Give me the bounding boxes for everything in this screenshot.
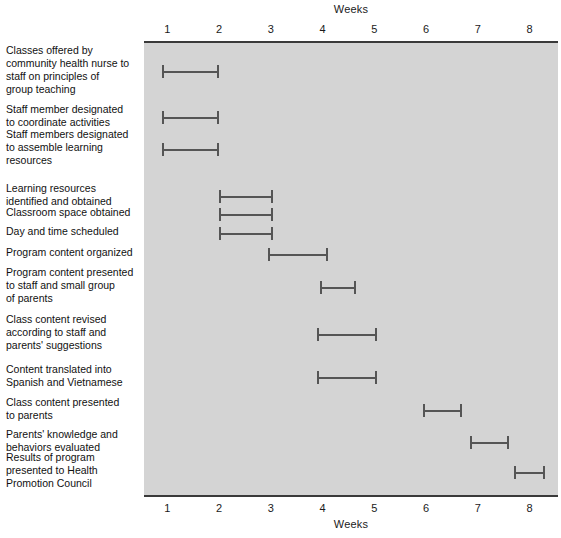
x-tick-label-bottom-5: 5: [371, 500, 377, 516]
gantt-chart-figure: Weeks 12345678 Classes offered bycommuni…: [0, 0, 561, 538]
gantt-bar-cap-start: [317, 371, 319, 384]
task-label-line: according to staff and: [6, 326, 140, 339]
gantt-bar: [219, 190, 273, 203]
x-tick-label-bottom-4: 4: [319, 500, 325, 516]
task-label-line: to assemble learning: [6, 141, 140, 154]
task-label: Results of programpresented to HealthPro…: [6, 451, 140, 490]
gantt-bar-stem: [317, 334, 377, 336]
bottom-axis-tick-row: 12345678: [0, 500, 561, 516]
x-tick-label-top-6: 6: [423, 21, 429, 37]
gantt-bar-cap-start: [219, 190, 221, 203]
task-label: Class content revisedaccording to staff …: [6, 313, 140, 352]
gantt-bar-stem: [162, 117, 219, 119]
gantt-bar: [320, 281, 356, 294]
task-label-line: Promotion Council: [6, 477, 140, 490]
task-label-line: Program content presented: [6, 266, 140, 279]
gantt-bar-stem: [423, 410, 462, 412]
task-label-line: Class content revised: [6, 313, 140, 326]
x-tick-label-bottom-6: 6: [423, 500, 429, 516]
x-tick-label-top-8: 8: [526, 21, 532, 37]
task-label-line: of parents: [6, 292, 140, 305]
chart-plot-area: [144, 41, 558, 497]
gantt-bar: [514, 466, 545, 479]
x-tick-label-bottom-8: 8: [526, 500, 532, 516]
gantt-bar-stem: [219, 214, 273, 216]
gantt-bar-cap-start: [320, 281, 322, 294]
x-tick-label-top-2: 2: [216, 21, 222, 37]
gantt-bar-cap-start: [470, 436, 472, 449]
gantt-bar-cap-end: [326, 248, 328, 261]
gantt-bar-cap-end: [271, 208, 273, 221]
task-label-line: Results of program: [6, 451, 140, 464]
gantt-bar: [162, 143, 219, 156]
task-label-column: Classes offered bycommunity health nurse…: [0, 41, 142, 497]
gantt-bar-cap-start: [268, 248, 270, 261]
task-label-line: Classroom space obtained: [6, 206, 140, 219]
gantt-bar: [219, 208, 273, 221]
task-label-line: Day and time scheduled: [6, 225, 140, 238]
task-label-line: Content translated into: [6, 363, 140, 376]
gantt-bar-stem: [162, 71, 219, 73]
gantt-bar: [317, 371, 377, 384]
gantt-bar: [219, 227, 273, 240]
gantt-bar-cap-end: [217, 143, 219, 156]
task-label-line: Learning resources: [6, 182, 140, 195]
top-axis-tick-row: 12345678: [0, 21, 561, 37]
task-label: Day and time scheduled: [6, 225, 140, 238]
gantt-bar-cap-start: [162, 65, 164, 78]
task-label-line: resources: [6, 154, 140, 167]
gantt-bar: [268, 248, 328, 261]
task-label: Staff member designatedto coordinate act…: [6, 103, 140, 129]
task-label: Program content organized: [6, 246, 140, 259]
bottom-axis-title: Weeks: [144, 518, 558, 530]
gantt-bar-stem: [317, 377, 377, 379]
gantt-bar: [317, 328, 377, 341]
gantt-bar-stem: [470, 442, 509, 444]
gantt-bar: [470, 436, 509, 449]
gantt-bar-cap-start: [162, 143, 164, 156]
x-tick-label-top-7: 7: [475, 21, 481, 37]
gantt-bar-cap-end: [375, 371, 377, 384]
x-tick-label-bottom-2: 2: [216, 500, 222, 516]
task-label-line: Staff member designated: [6, 103, 140, 116]
task-label: Content translated intoSpanish and Vietn…: [6, 363, 140, 389]
task-label-line: Program content organized: [6, 246, 140, 259]
task-label-line: parents' suggestions: [6, 339, 140, 352]
task-label-line: Staff members designated: [6, 128, 140, 141]
task-label: Learning resourcesidentified and obtaine…: [6, 182, 140, 208]
task-label-line: to parents: [6, 409, 140, 422]
gantt-bar-cap-end: [354, 281, 356, 294]
task-label: Classes offered bycommunity health nurse…: [6, 44, 140, 96]
task-label-line: group teaching: [6, 83, 140, 96]
task-label: Classroom space obtained: [6, 206, 140, 219]
x-tick-label-top-3: 3: [268, 21, 274, 37]
task-label-line: Class content presented: [6, 396, 140, 409]
gantt-bar-cap-start: [317, 328, 319, 341]
gantt-bar-stem: [320, 287, 356, 289]
top-axis-title: Weeks: [144, 3, 558, 15]
task-label-line: community health nurse to: [6, 57, 140, 70]
task-label: Parents' knowledge andbehaviors evaluate…: [6, 428, 140, 454]
gantt-bar-cap-end: [460, 404, 462, 417]
task-label-line: Classes offered by: [6, 44, 140, 57]
x-tick-label-bottom-3: 3: [268, 500, 274, 516]
gantt-bar: [162, 111, 219, 124]
gantt-bar-cap-end: [543, 466, 545, 479]
gantt-bar-stem: [219, 196, 273, 198]
task-label-line: to coordinate activities: [6, 116, 140, 129]
gantt-bar: [162, 65, 219, 78]
gantt-bar-stem: [162, 149, 219, 151]
task-label: Staff members designatedto assemble lear…: [6, 128, 140, 167]
task-label-line: to staff and small group: [6, 279, 140, 292]
task-label: Program content presentedto staff and sm…: [6, 266, 140, 305]
gantt-bar-stem: [514, 472, 545, 474]
gantt-bar-cap-end: [271, 227, 273, 240]
gantt-bar-cap-end: [217, 65, 219, 78]
gantt-bar-cap-end: [507, 436, 509, 449]
task-label-line: Parents' knowledge and: [6, 428, 140, 441]
gantt-bar-cap-end: [375, 328, 377, 341]
task-label-line: Spanish and Vietnamese: [6, 376, 140, 389]
gantt-bar-cap-start: [514, 466, 516, 479]
gantt-bar-cap-end: [217, 111, 219, 124]
x-tick-label-top-5: 5: [371, 21, 377, 37]
